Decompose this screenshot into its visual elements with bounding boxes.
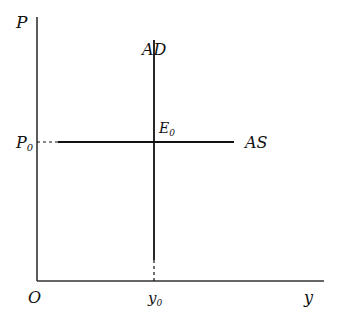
p0-label: P0	[15, 133, 34, 153]
y0-label: y0	[147, 289, 162, 308]
y-axis-label: P	[15, 12, 28, 32]
as-label: AS	[243, 133, 268, 152]
ad-as-diagram: P P0 AD E0 AS O y0 y	[0, 0, 343, 323]
x-axis-label: y	[303, 288, 314, 307]
origin-label: O	[28, 288, 41, 307]
ad-label: AD	[140, 40, 167, 59]
equilibrium-label: E0	[158, 120, 175, 138]
